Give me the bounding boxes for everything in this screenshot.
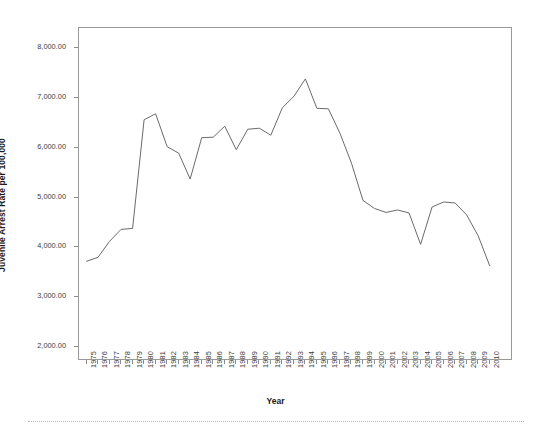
- x-tick-mark: [178, 360, 179, 364]
- x-tick-mark: [489, 360, 490, 364]
- x-tick-mark: [166, 360, 167, 364]
- chart-figure: Juvenile Arrest Rate per 100,000 2,000.0…: [0, 0, 551, 430]
- y-tick-label: 5,000.00: [8, 192, 66, 201]
- x-tick-mark: [293, 360, 294, 364]
- x-tick-mark: [235, 360, 236, 364]
- x-tick-mark: [189, 360, 190, 364]
- x-tick-mark: [350, 360, 351, 364]
- x-tick-mark: [143, 360, 144, 364]
- x-tick-mark: [120, 360, 121, 364]
- x-tick-mark: [339, 360, 340, 364]
- y-tick-label: 2,000.00: [8, 341, 66, 350]
- x-tick-mark: [281, 360, 282, 364]
- x-tick-mark: [270, 360, 271, 364]
- x-axis-title: Year: [0, 396, 551, 406]
- x-tick-mark: [362, 360, 363, 364]
- x-tick-mark: [454, 360, 455, 364]
- x-tick-mark: [132, 360, 133, 364]
- x-tick-mark: [212, 360, 213, 364]
- y-tick-label: 4,000.00: [8, 241, 66, 250]
- x-tick-mark: [443, 360, 444, 364]
- x-tick-mark: [420, 360, 421, 364]
- line-series-svg: [79, 28, 513, 361]
- x-tick-mark: [109, 360, 110, 364]
- x-tick-mark: [86, 360, 87, 364]
- data-line-juvenile-arrest-rate: [87, 79, 490, 266]
- y-tick-label: 8,000.00: [8, 42, 66, 51]
- x-tick-mark: [408, 360, 409, 364]
- x-tick-mark: [466, 360, 467, 364]
- y-tick-label: 3,000.00: [8, 291, 66, 300]
- x-tick-mark: [97, 360, 98, 364]
- x-tick-mark: [224, 360, 225, 364]
- footer-divider: [28, 421, 524, 423]
- x-tick-mark: [477, 360, 478, 364]
- y-tick-label: 6,000.00: [8, 142, 66, 151]
- x-tick-mark: [385, 360, 386, 364]
- x-tick-mark: [155, 360, 156, 364]
- x-tick-mark: [304, 360, 305, 364]
- x-tick-mark: [327, 360, 328, 364]
- x-tick-mark: [258, 360, 259, 364]
- x-tick-mark: [201, 360, 202, 364]
- x-tick-mark: [431, 360, 432, 364]
- y-tick-label: 7,000.00: [8, 92, 66, 101]
- x-tick-label: 2010: [492, 351, 501, 368]
- x-tick-mark: [247, 360, 248, 364]
- x-tick-mark: [397, 360, 398, 364]
- x-tick-mark: [316, 360, 317, 364]
- y-axis-title: Juvenile Arrest Rate per 100,000: [0, 95, 7, 315]
- plot-area: [78, 27, 512, 360]
- x-tick-mark: [374, 360, 375, 364]
